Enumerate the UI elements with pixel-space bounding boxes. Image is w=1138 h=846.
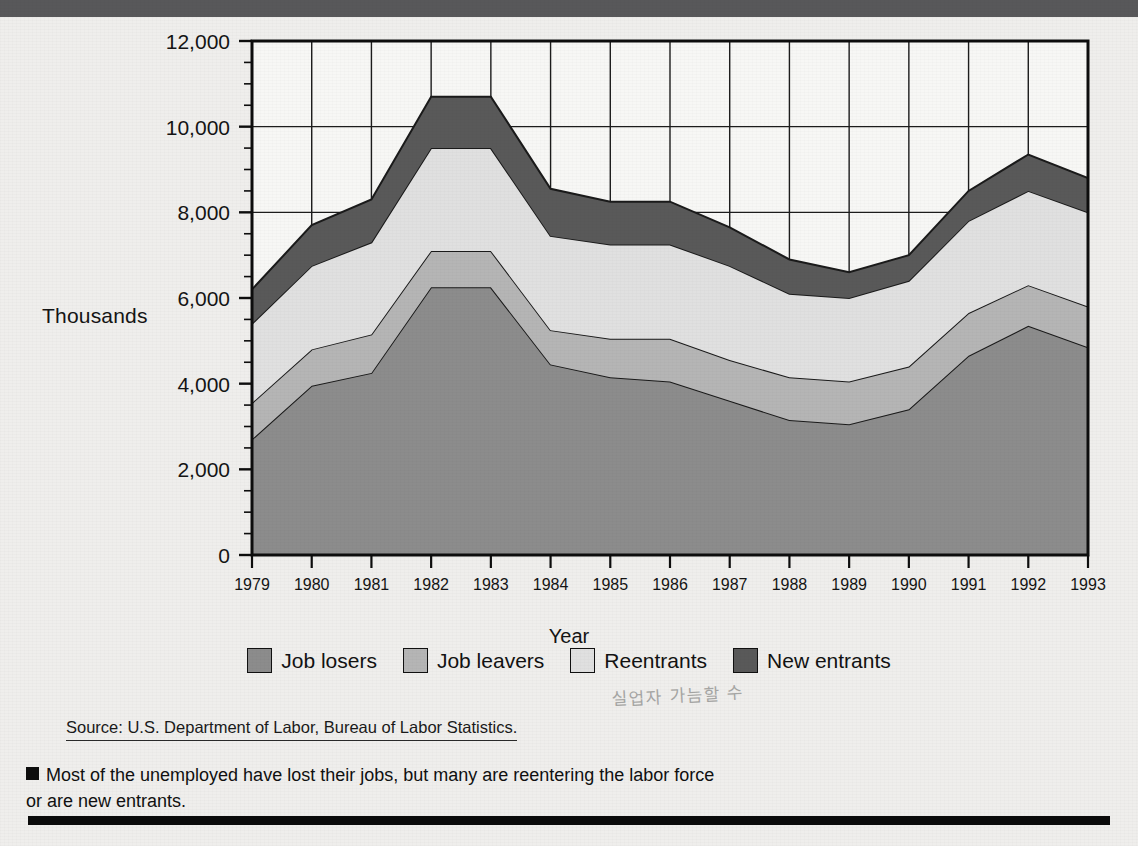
- legend-label-job-leavers: Job leavers: [437, 649, 544, 673]
- svg-text:12,000: 12,000: [166, 30, 230, 53]
- svg-text:1991: 1991: [951, 576, 987, 593]
- handwritten-annotation: 실업자 가늠할 수: [611, 679, 744, 711]
- svg-text:2,000: 2,000: [177, 458, 230, 481]
- legend-label-reentrants: Reentrants: [604, 649, 707, 673]
- legend-swatch-job-leavers: [403, 648, 428, 673]
- bottom-border-rule: [28, 816, 1110, 825]
- svg-text:8,000: 8,000: [177, 201, 230, 224]
- legend-swatch-new-entrants: [733, 648, 758, 673]
- legend-swatch-job-losers: [247, 648, 272, 673]
- svg-text:1986: 1986: [652, 576, 688, 593]
- caption-bullet-icon: [26, 767, 39, 780]
- legend-swatch-reentrants: [570, 648, 595, 673]
- top-border-bar: [0, 0, 1138, 17]
- chart-legend: Job losers Job leavers Reentrants New en…: [0, 648, 1138, 673]
- svg-text:1989: 1989: [831, 576, 867, 593]
- y-axis-ticks: 02,0004,0006,0008,00010,00012,000: [166, 30, 252, 567]
- svg-text:1980: 1980: [294, 576, 330, 593]
- svg-text:1982: 1982: [413, 576, 449, 593]
- svg-text:1985: 1985: [592, 576, 628, 593]
- legend-item-job-leavers: Job leavers: [403, 648, 544, 673]
- svg-text:1990: 1990: [891, 576, 927, 593]
- svg-text:1993: 1993: [1070, 576, 1106, 593]
- svg-text:1988: 1988: [772, 576, 808, 593]
- svg-text:1992: 1992: [1010, 576, 1046, 593]
- x-axis-ticks: 1979198019811982198319841985198619871988…: [234, 555, 1106, 593]
- caption-text: Most of the unemployed have lost their j…: [26, 765, 714, 811]
- x-axis-title: Year: [0, 625, 1138, 648]
- svg-text:10,000: 10,000: [166, 116, 230, 139]
- source-note: Source: U.S. Department of Labor, Bureau…: [66, 718, 517, 741]
- legend-item-reentrants: Reentrants: [570, 648, 707, 673]
- svg-text:1987: 1987: [712, 576, 748, 593]
- svg-text:1979: 1979: [234, 576, 270, 593]
- svg-text:1984: 1984: [533, 576, 569, 593]
- figure-caption: Most of the unemployed have lost their j…: [26, 762, 726, 814]
- legend-label-new-entrants: New entrants: [767, 649, 891, 673]
- svg-text:1981: 1981: [354, 576, 390, 593]
- svg-text:1983: 1983: [473, 576, 509, 593]
- legend-item-new-entrants: New entrants: [733, 648, 891, 673]
- svg-text:4,000: 4,000: [177, 373, 230, 396]
- chart-area: 02,0004,0006,0008,00010,00012,000 197919…: [0, 18, 1138, 618]
- svg-text:0: 0: [218, 544, 230, 567]
- stacked-area-chart: 02,0004,0006,0008,00010,00012,000 197919…: [0, 18, 1138, 618]
- legend-item-job-losers: Job losers: [247, 648, 377, 673]
- legend-label-job-losers: Job losers: [281, 649, 377, 673]
- y-axis-title: Thousands: [42, 304, 148, 328]
- svg-text:6,000: 6,000: [177, 287, 230, 310]
